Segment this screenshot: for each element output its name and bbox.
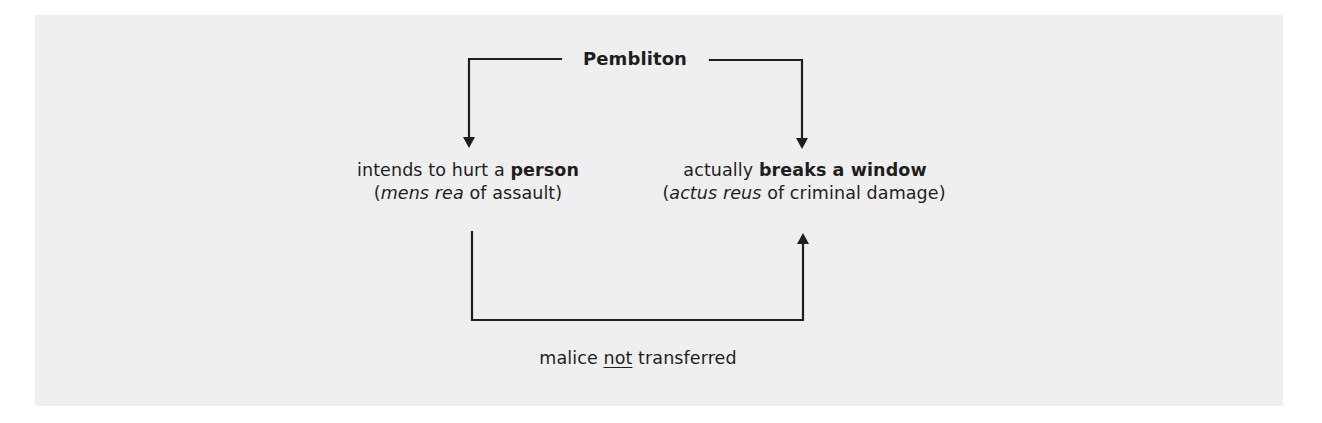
left-node-text: intends to hurt a	[357, 160, 510, 180]
left-node-bold: person	[510, 160, 579, 180]
bottom-label-prefix: malice	[539, 348, 603, 368]
top-right-connector	[710, 60, 802, 139]
right-node-italic: actus reus	[669, 183, 761, 203]
top-left-connector	[469, 59, 561, 138]
arrow-down-left-icon	[463, 137, 475, 148]
left-node-line1: intends to hurt a person	[357, 159, 579, 181]
left-node-line2: (mens rea of assault)	[374, 182, 563, 204]
right-node-line1: actually breaks a window	[683, 159, 926, 181]
left-node-suffix: of assault)	[464, 183, 563, 203]
right-node-line2: (actus reus of criminal damage)	[662, 182, 945, 204]
bottom-label: malice not transferred	[539, 347, 736, 369]
left-node-italic: mens rea	[381, 183, 464, 203]
left-node-paren: (	[374, 183, 381, 203]
diagram-title: Pembliton	[583, 48, 687, 70]
right-node-bold: breaks a window	[759, 160, 927, 180]
bottom-label-suffix: transferred	[632, 348, 736, 368]
right-node-paren: (	[662, 183, 669, 203]
right-node-suffix: of criminal damage)	[761, 183, 945, 203]
bottom-label-underlined: not	[603, 348, 632, 368]
arrow-down-right-icon	[796, 138, 808, 149]
bottom-loop-connector	[472, 232, 803, 320]
right-node-text: actually	[683, 160, 759, 180]
arrow-up-icon	[797, 233, 809, 244]
